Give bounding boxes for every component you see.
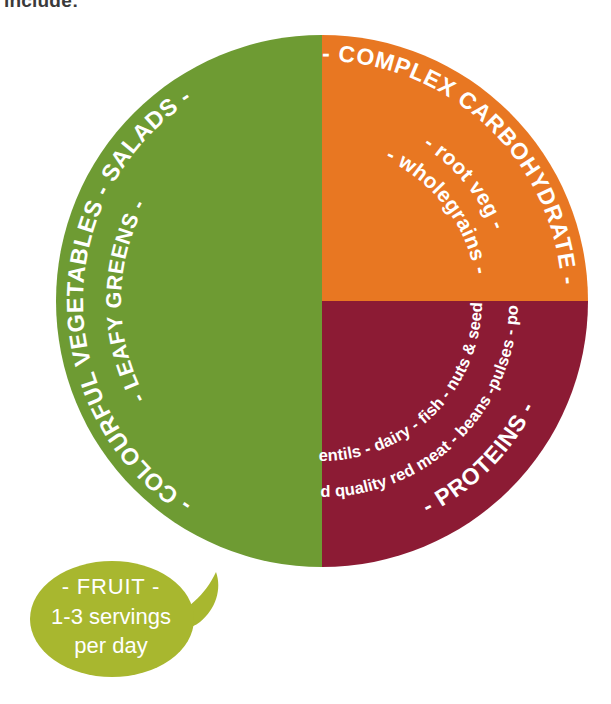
healthy-plate-pie-chart: - COLOURFUL VEGETABLES - SALADS - - LEAF… — [0, 0, 611, 704]
infographic-canvas: include: — [0, 0, 611, 704]
fruit-badge-line-1: 1-3 servings — [51, 604, 171, 629]
cropped-heading-text: include: — [4, 0, 78, 12]
pie-slice-vegetables[interactable] — [56, 35, 322, 567]
fruit-badge-line-2: per day — [74, 633, 147, 658]
fruit-badge-title: - FRUIT - — [62, 574, 160, 599]
fruit-badge[interactable]: - FRUIT - 1-3 servings per day — [30, 561, 218, 677]
